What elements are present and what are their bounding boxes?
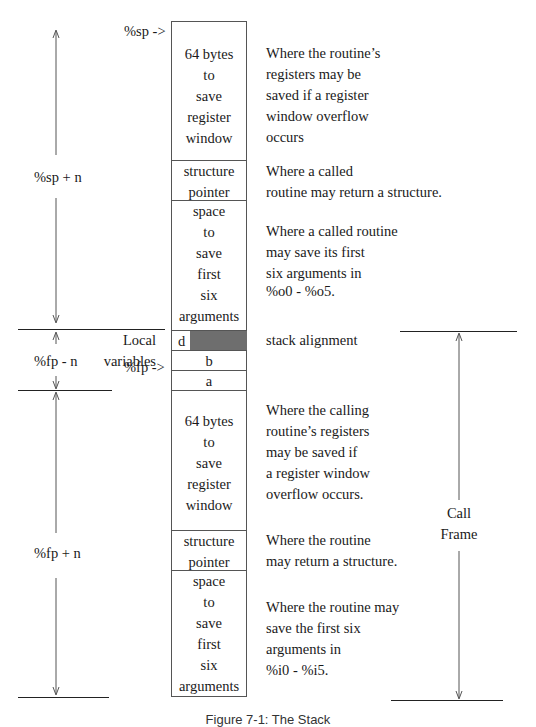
cell-line: structure <box>172 531 246 552</box>
desc-line: Where the routine <box>266 530 397 551</box>
desc-line: routine may return a structure. <box>266 182 442 203</box>
sp-plus-n-label: %sp + n <box>34 167 82 188</box>
cell-line: save <box>172 613 246 634</box>
desc-args-bottom: Where the routine may save the first six… <box>266 597 399 681</box>
cell-line: 64 bytes <box>172 411 246 432</box>
stack-cell-args-top: space to save first six arguments <box>171 200 247 331</box>
call-frame-bottom-line <box>391 700 503 701</box>
cell-line: to <box>172 65 246 86</box>
frame-boundary-fp-line <box>18 390 112 391</box>
stack-cell-structure-pointer-bottom: structure pointer <box>171 530 247 571</box>
cell-line: first <box>172 264 246 285</box>
cell-line: structure <box>172 161 246 182</box>
desc-line: Where the routine’s <box>266 43 380 64</box>
desc-line: Where the routine may <box>266 597 399 618</box>
alignment-padding-fill <box>190 331 247 350</box>
stack-cell-args-bottom: space to save first six arguments <box>171 570 247 697</box>
cell-line: space <box>172 201 246 222</box>
stack-cell-register-window-bottom: 64 bytes to save register window <box>171 390 247 531</box>
desc-line: Where the calling <box>266 400 370 421</box>
frame-boundary-bottom-line <box>18 697 109 698</box>
desc-line: routine’s registers <box>266 421 370 442</box>
cell-line: window <box>172 495 246 516</box>
desc-line: Where a called routine <box>266 221 398 242</box>
cell-line: register <box>172 107 246 128</box>
fp-plus-n-label: %fp + n <box>34 543 81 564</box>
cell-line: save <box>172 243 246 264</box>
cell-line: to <box>172 222 246 243</box>
desc-args-top: Where a called routine may save its firs… <box>266 221 398 302</box>
desc-structure-pointer-top: Where a called routine may return a stru… <box>266 161 442 203</box>
stack-cell-local-a: a <box>171 370 247 391</box>
stack-cell-local-d: d <box>171 330 247 351</box>
desc-line: a register window <box>266 463 370 484</box>
cell-line: six <box>172 285 246 306</box>
cell-line: to <box>172 592 246 613</box>
sp-pointer-label: %sp -> <box>124 21 166 42</box>
cell-line: 64 bytes <box>172 44 246 65</box>
desc-line: may be saved if <box>266 442 370 463</box>
stack-cell-structure-pointer-top: structure pointer <box>171 160 247 201</box>
cell-line: arguments <box>172 306 246 327</box>
cell-line: window <box>172 128 246 149</box>
desc-line: registers may be <box>266 64 380 85</box>
desc-structure-pointer-bottom: Where the routine may return a structure… <box>266 530 397 572</box>
desc-line: Where a called <box>266 161 442 182</box>
desc-line: may return a structure. <box>266 551 397 572</box>
fp-minus-n-label: %fp - n <box>34 351 78 372</box>
stack-cell-local-b: b <box>171 350 247 371</box>
desc-line: %o0 - %o5. <box>266 281 398 302</box>
cell-line: arguments <box>172 676 246 697</box>
figure-caption: Figure 7-1: The Stack <box>0 712 536 727</box>
cell-line: save <box>172 453 246 474</box>
call-frame-top-line <box>400 331 517 332</box>
desc-line: save the first six <box>266 618 399 639</box>
desc-line: saved if a register <box>266 85 380 106</box>
desc-register-window-top: Where the routine’s registers may be sav… <box>266 43 380 148</box>
desc-line: may save its first <box>266 242 398 263</box>
frame-label-line: Frame <box>430 524 488 545</box>
cell-line: save <box>172 86 246 107</box>
cell-line: to <box>172 432 246 453</box>
cell-label-a: a <box>206 373 212 389</box>
cell-label-d: d <box>178 333 185 349</box>
desc-line: overflow occurs. <box>266 484 370 505</box>
local-variables-label: Local variables <box>108 330 156 372</box>
call-frame-label: Call Frame <box>430 503 488 545</box>
stack-cell-register-window-top: 64 bytes to save register window <box>171 21 247 161</box>
desc-stack-alignment: stack alignment <box>266 330 357 351</box>
desc-line: occurs <box>266 127 380 148</box>
cell-label-b: b <box>205 353 212 369</box>
variables-label-line: variables <box>96 351 156 372</box>
cell-line: register <box>172 474 246 495</box>
desc-line: %i0 - %i5. <box>266 660 399 681</box>
call-label-line: Call <box>430 503 488 524</box>
desc-register-window-bottom: Where the calling routine’s registers ma… <box>266 400 370 505</box>
desc-line: arguments in <box>266 639 399 660</box>
cell-line: space <box>172 571 246 592</box>
desc-line: window overflow <box>266 106 380 127</box>
cell-line: first <box>172 634 246 655</box>
local-label-line: Local <box>108 330 156 351</box>
cell-line: six <box>172 655 246 676</box>
